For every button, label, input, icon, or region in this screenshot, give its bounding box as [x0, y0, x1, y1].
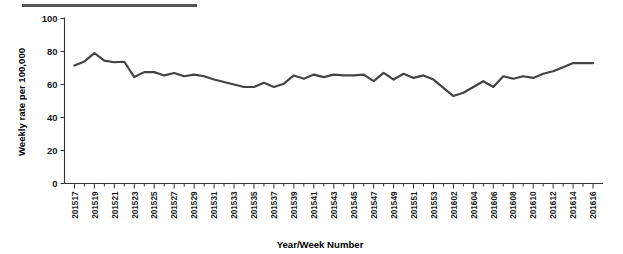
chart-figure: 020406080100 201517201519201521201523201…: [0, 0, 623, 254]
x-tick-label: 201612: [549, 191, 558, 219]
x-tick-label: 201543: [330, 191, 339, 219]
x-tick-label: 201527: [170, 191, 179, 219]
x-tick-label: 201517: [71, 191, 80, 219]
series-polyline: [74, 53, 593, 96]
x-tick-label: 201604: [470, 191, 479, 219]
x-tick-label: 201608: [509, 191, 518, 219]
y-tick-label: 100: [42, 13, 58, 24]
x-tick-label: 201523: [131, 191, 140, 219]
x-tick-label: 201521: [111, 191, 120, 219]
x-tick-label: 201519: [91, 191, 100, 219]
x-axis: 2015172015192015212015232015252015272015…: [65, 184, 604, 219]
line-chart-plot: 020406080100 201517201519201521201523201…: [0, 0, 623, 254]
x-tick-label: 201529: [190, 191, 199, 219]
x-tick-label: 201553: [430, 191, 439, 219]
x-tick-label: 201616: [589, 191, 598, 219]
x-axis-title: Year/Week Number: [277, 239, 364, 250]
x-tick-label: 201606: [490, 191, 499, 219]
x-tick-label: 201614: [569, 191, 578, 219]
y-axis: 020406080100: [42, 13, 65, 189]
x-tick-label: 201545: [350, 191, 359, 219]
y-tick-label: 0: [52, 178, 57, 189]
x-tick-label: 201610: [529, 191, 538, 219]
y-tick-label: 20: [47, 145, 58, 156]
x-tick-label: 201525: [150, 191, 159, 219]
data-series-weekly-rate: [74, 53, 593, 96]
y-tick-label: 60: [47, 79, 58, 90]
x-tick-label: 201539: [290, 191, 299, 219]
x-tick-label: 201533: [230, 191, 239, 219]
x-tick-label: 201547: [370, 191, 379, 219]
x-tick-label: 201549: [390, 191, 399, 219]
x-tick-label: 201602: [450, 191, 459, 219]
x-tick-label: 201531: [210, 191, 219, 219]
x-tick-label: 201537: [270, 191, 279, 219]
x-tick-label: 201535: [250, 191, 259, 219]
x-tick-label: 201551: [410, 191, 419, 219]
y-axis-title: Weekly rate per 100,000: [16, 48, 27, 156]
x-tick-label: 201541: [310, 191, 319, 219]
header-divider-rule: [22, 4, 197, 7]
y-tick-label: 40: [47, 112, 58, 123]
y-tick-label: 80: [47, 46, 58, 57]
